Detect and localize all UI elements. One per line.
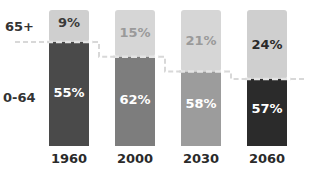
label-0-64-2000: 62% (119, 92, 150, 107)
label-0-64-2060: 57% (251, 101, 282, 116)
label-0-64-1960: 55% (53, 85, 84, 100)
label-65plus-2000: 15% (119, 25, 150, 40)
x-tick-1960: 1960 (51, 151, 87, 166)
label-0-64-2030: 58% (185, 96, 216, 111)
row-label-0-64: 0-64 (3, 90, 36, 105)
label-65plus-2060: 24% (251, 37, 282, 52)
connector-3 (225, 72, 247, 79)
x-tick-2060: 2060 (249, 151, 285, 166)
x-tick-2000: 2000 (117, 151, 153, 166)
label-65plus-1960: 9% (58, 15, 80, 30)
chart: 9%55%196015%62%200021%58%203024%57%20606… (0, 0, 313, 177)
x-tick-2030: 2030 (183, 151, 219, 166)
label-65plus-2030: 21% (185, 33, 216, 48)
connector-2 (159, 57, 181, 72)
row-label-65plus: 65+ (5, 19, 34, 34)
connector-1 (93, 42, 115, 57)
